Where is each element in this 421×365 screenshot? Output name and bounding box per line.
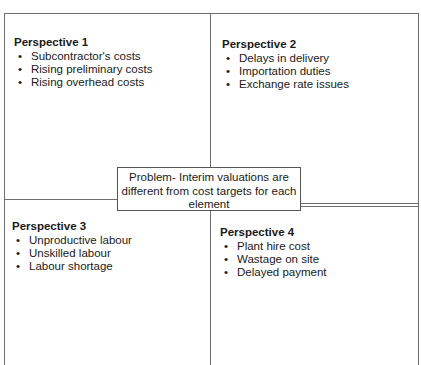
list-item: Subcontractor's costs bbox=[14, 50, 152, 63]
perspective-3-list: Unproductive labour Unskilled labour Lab… bbox=[12, 234, 132, 273]
perspective-4-title: Perspective 4 bbox=[220, 226, 327, 239]
perspective-2-title: Perspective 2 bbox=[222, 38, 349, 51]
list-item: Exchange rate issues bbox=[222, 78, 349, 91]
perspective-2-list: Delays in delivery Importation duties Ex… bbox=[222, 52, 349, 91]
quadrant-perspective-2: Perspective 2 Delays in delivery Importa… bbox=[222, 38, 349, 91]
list-item: Unskilled labour bbox=[12, 247, 132, 260]
quadrant-perspective-3: Perspective 3 Unproductive labour Unskil… bbox=[12, 220, 132, 273]
perspective-4-list: Plant hire cost Wastage on site Delayed … bbox=[220, 240, 327, 279]
outer-left-border bbox=[4, 13, 5, 365]
perspective-1-list: Subcontractor's costs Rising preliminary… bbox=[14, 50, 152, 89]
outer-top-border bbox=[4, 13, 419, 14]
list-item: Rising overhead costs bbox=[14, 76, 152, 89]
list-item: Rising preliminary costs bbox=[14, 63, 152, 76]
list-item: Plant hire cost bbox=[220, 240, 327, 253]
outer-right-border bbox=[418, 13, 419, 365]
list-item: Delayed payment bbox=[220, 266, 327, 279]
quadrant-perspective-1: Perspective 1 Subcontractor's costs Risi… bbox=[14, 36, 152, 89]
list-item: Importation duties bbox=[222, 65, 349, 78]
perspective-3-title: Perspective 3 bbox=[12, 220, 132, 233]
list-item: Unproductive labour bbox=[12, 234, 132, 247]
list-item: Labour shortage bbox=[12, 260, 132, 273]
problem-statement-box: Problem- Interim valuations are differen… bbox=[117, 167, 301, 211]
quadrant-perspective-4: Perspective 4 Plant hire cost Wastage on… bbox=[220, 226, 327, 279]
list-item: Delays in delivery bbox=[222, 52, 349, 65]
problem-statement: Problem- Interim valuations are differen… bbox=[122, 171, 297, 210]
list-item: Wastage on site bbox=[220, 253, 327, 266]
perspective-1-title: Perspective 1 bbox=[14, 36, 152, 49]
